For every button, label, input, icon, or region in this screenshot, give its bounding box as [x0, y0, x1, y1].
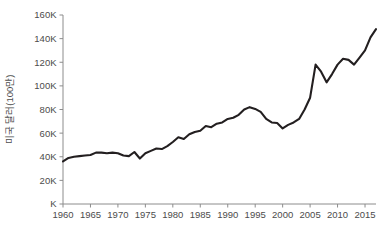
- x-tick-label: 1965: [80, 209, 101, 220]
- y-tick-label: 100K: [34, 80, 57, 91]
- y-tick-label: 140K: [34, 33, 57, 44]
- y-axis-title: 미국 달러(100만): [4, 75, 15, 145]
- x-tick-label: 1985: [190, 209, 211, 220]
- chart-container: K20K40K60K80K100K120K140K160K 1960196519…: [0, 0, 385, 230]
- x-axis: 1960196519701975198019851990199520002005…: [52, 204, 376, 220]
- x-tick-label: 2005: [300, 209, 321, 220]
- y-tick-label: 80K: [40, 104, 58, 115]
- line-chart: K20K40K60K80K100K120K140K160K 1960196519…: [0, 0, 385, 230]
- y-axis: K20K40K60K80K100K120K140K160K: [34, 9, 63, 209]
- x-tick-label: 2015: [354, 209, 375, 220]
- y-tick-label: 120K: [34, 57, 57, 68]
- x-tick-label: 1995: [245, 209, 266, 220]
- x-tick-label: 2010: [327, 209, 348, 220]
- y-tick-label: 40K: [40, 151, 58, 162]
- x-tick-label: 1975: [135, 209, 156, 220]
- data-line-미국 달러(100만): [63, 29, 376, 161]
- y-axis-title-label: 미국 달러(100만): [4, 75, 15, 145]
- x-tick-label: 2000: [272, 209, 293, 220]
- x-tick-label: 1970: [107, 209, 128, 220]
- y-tick-label: K: [50, 198, 57, 209]
- x-tick-label: 1990: [217, 209, 238, 220]
- x-tick-label: 1980: [162, 209, 183, 220]
- y-tick-label: 20K: [40, 175, 58, 186]
- y-tick-label: 60K: [40, 128, 58, 139]
- x-tick-label: 1960: [52, 209, 73, 220]
- data-series-group: [63, 29, 376, 161]
- y-tick-label: 160K: [34, 9, 57, 20]
